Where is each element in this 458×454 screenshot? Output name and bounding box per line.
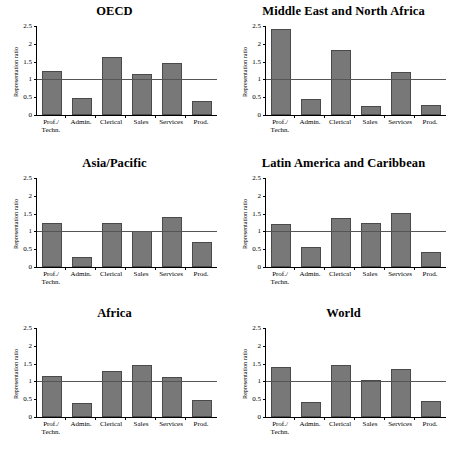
bar — [42, 223, 62, 267]
reference-line — [266, 231, 446, 232]
bar-group — [266, 178, 446, 267]
x-tick-mark — [385, 417, 415, 421]
x-tick-mark — [265, 115, 295, 119]
bar — [162, 217, 182, 267]
reference-line — [266, 79, 446, 80]
x-tick-label: Services — [385, 118, 415, 134]
x-axis-tick-marks — [265, 417, 445, 421]
x-tick-label: Prod. — [415, 270, 445, 286]
bar-slot — [97, 26, 127, 115]
x-tick-label: Prod. — [415, 420, 445, 436]
chart-panel: Latin America and CaribbeanRepresentatio… — [229, 152, 458, 302]
bar — [132, 365, 152, 417]
bar-group — [37, 26, 217, 115]
x-tick-mark — [96, 115, 126, 119]
chart-area: Representation ratio00.511.522.5Prof./ T… — [229, 170, 458, 288]
bar-slot — [296, 26, 326, 115]
x-axis-tick-labels: Prof./ Techn.Admin.ClericalSalesServices… — [265, 270, 445, 286]
x-tick-mark — [355, 267, 385, 271]
y-tick-label: 1.5 — [252, 58, 261, 65]
bar-slot — [386, 328, 416, 417]
y-tick-label: 1 — [258, 76, 262, 83]
bar-slot — [416, 328, 446, 417]
y-axis-tick-labels: 00.511.522.5 — [245, 320, 261, 420]
bar — [162, 377, 182, 417]
y-tick-label: 2 — [258, 192, 262, 199]
bar — [331, 50, 351, 115]
bar — [361, 106, 381, 115]
bar — [271, 29, 291, 115]
chart-panel: Asia/PacificRepresentation ratio00.511.5… — [0, 152, 229, 302]
x-tick-mark — [186, 267, 216, 271]
x-tick-mark — [295, 417, 325, 421]
bar-slot — [266, 328, 296, 417]
chart-area: Representation ratio00.511.522.5Prof./ T… — [0, 18, 229, 136]
x-tick-label: Prof./ Techn. — [36, 270, 66, 286]
x-tick-label: Prod. — [186, 118, 216, 134]
bar — [102, 57, 122, 115]
bar-group — [266, 328, 446, 417]
bar-slot — [37, 328, 67, 417]
x-tick-label: Admin. — [295, 420, 325, 436]
y-tick-label: 1 — [29, 76, 33, 83]
reference-line — [37, 381, 217, 382]
bar-slot — [326, 178, 356, 267]
y-tick-label: 2.5 — [23, 23, 32, 30]
x-tick-mark — [265, 267, 295, 271]
chart-panel: AfricaRepresentation ratio00.511.522.5Pr… — [0, 302, 229, 454]
bar-slot — [187, 328, 217, 417]
bar — [271, 224, 291, 267]
x-axis-tick-labels: Prof./ Techn.Admin.ClericalSalesServices… — [265, 118, 445, 134]
y-tick-label: 1 — [258, 378, 262, 385]
bar-slot — [187, 178, 217, 267]
bar — [72, 257, 92, 267]
bar-slot — [187, 26, 217, 115]
y-tick-label: 1 — [29, 378, 33, 385]
bar — [421, 252, 441, 267]
bar-slot — [266, 178, 296, 267]
x-tick-label: Sales — [355, 270, 385, 286]
y-tick-label: 0.5 — [23, 396, 32, 403]
y-tick-label: 0.5 — [23, 94, 32, 101]
x-tick-mark — [325, 267, 355, 271]
bar-group — [37, 178, 217, 267]
x-tick-mark — [295, 267, 325, 271]
x-tick-label: Admin. — [66, 118, 96, 134]
bar-slot — [127, 328, 157, 417]
x-tick-mark — [66, 267, 96, 271]
x-axis-tick-marks — [36, 115, 216, 119]
bar-slot — [386, 178, 416, 267]
x-tick-label: Sales — [355, 118, 385, 134]
bar-slot — [67, 178, 97, 267]
x-tick-mark — [156, 267, 186, 271]
x-tick-label: Prof./ Techn. — [265, 118, 295, 134]
y-tick-label: 0 — [29, 414, 33, 421]
chart-area: Representation ratio00.511.522.5Prof./ T… — [0, 170, 229, 288]
y-tick-label: 1 — [29, 228, 33, 235]
bar — [361, 223, 381, 267]
x-tick-label: Clerical — [96, 420, 126, 436]
x-tick-label: Prod. — [186, 420, 216, 436]
x-tick-mark — [186, 417, 216, 421]
x-tick-label: Clerical — [325, 118, 355, 134]
bar — [391, 213, 411, 267]
panel-title: OECD — [0, 0, 229, 18]
y-tick-label: 0 — [258, 414, 262, 421]
x-tick-mark — [96, 417, 126, 421]
x-tick-mark — [126, 267, 156, 271]
y-axis-tick-labels: 00.511.522.5 — [16, 170, 32, 270]
chart-panel: OECDRepresentation ratio00.511.522.5Prof… — [0, 0, 229, 152]
x-tick-mark — [66, 417, 96, 421]
bar — [42, 71, 62, 116]
y-tick-label: 0.5 — [252, 246, 261, 253]
bar — [331, 218, 351, 267]
panel-title: Middle East and North Africa — [229, 0, 458, 18]
chart-area: Representation ratio00.511.522.5Prof./ T… — [229, 18, 458, 136]
y-tick-label: 1.5 — [252, 210, 261, 217]
x-tick-mark — [325, 115, 355, 119]
bar — [132, 231, 152, 267]
x-tick-label: Sales — [355, 420, 385, 436]
chart-panel: Middle East and North AfricaRepresentati… — [229, 0, 458, 152]
x-tick-label: Admin. — [66, 270, 96, 286]
x-tick-label: Prof./ Techn. — [36, 118, 66, 134]
